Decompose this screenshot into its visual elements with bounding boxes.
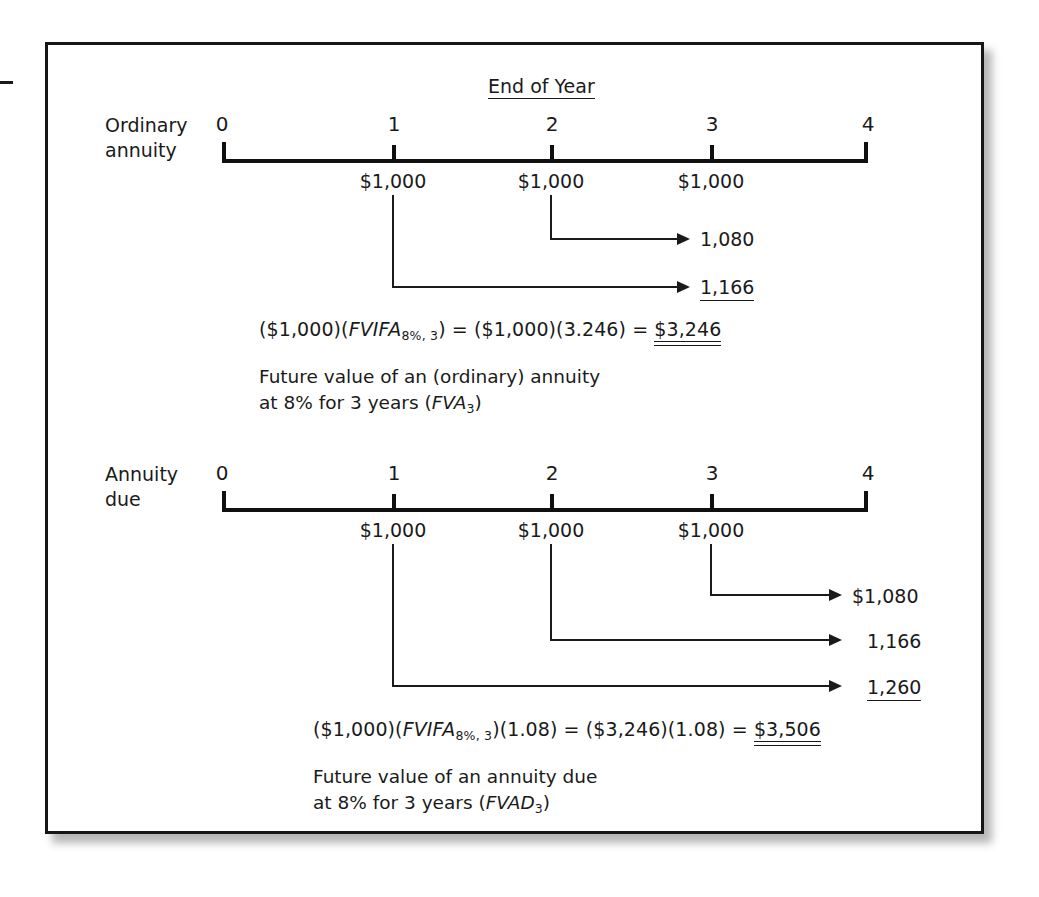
axis-endcap-left-ordinary	[222, 142, 226, 163]
axis-label-3-ordinary: 3	[692, 112, 732, 136]
future-value-1260-due: 1,260	[867, 676, 921, 701]
connector-vertical-year1-ordinary	[392, 195, 394, 288]
axis-endcap-right-due	[864, 491, 868, 512]
axis-label-4-ordinary: 4	[848, 112, 888, 136]
section-title-line1-due: Annuity	[105, 462, 178, 487]
axis-endcap-left-due	[222, 491, 226, 512]
axis-tick-1-ordinary	[392, 145, 396, 163]
description-line1-ordinary: Future value of an (ordinary) annuity	[259, 364, 600, 390]
future-value-1080-due: $1,080	[852, 585, 918, 607]
formula-result-ordinary: $3,246	[654, 318, 721, 342]
future-value-1166-due: 1,166	[867, 630, 921, 652]
cash-flow-year3-due: $1,000	[651, 519, 771, 541]
axis-tick-3-ordinary	[710, 145, 714, 163]
connector-vertical-year2-due	[550, 544, 552, 641]
arrowhead-year1-ordinary	[677, 281, 690, 293]
figure-canvas: End of Year Ordinary annuity 0 1 2 3 4 $…	[45, 42, 984, 834]
axis-label-1-ordinary: 1	[374, 112, 414, 136]
axis-label-2-due: 2	[532, 461, 572, 485]
connector-vertical-year2-ordinary	[550, 195, 552, 240]
connector-horizontal-year2-ordinary	[550, 238, 679, 240]
formula-subscript-due: 8%, 3	[455, 728, 492, 743]
formula-factor-ordinary: FVIFA	[349, 318, 402, 340]
axis-label-0-ordinary: 0	[202, 112, 242, 136]
formula-subscript-ordinary: 8%, 3	[401, 328, 438, 343]
cash-flow-year2-ordinary: $1,000	[491, 170, 611, 192]
section-title-line2-ordinary: annuity	[105, 138, 177, 163]
arrowhead-year1-due	[829, 680, 842, 692]
connector-vertical-year3-due	[710, 544, 712, 596]
formula-annuity-due: ($1,000)(FVIFA8%, 3)(1.08) = ($3,246)(1.…	[313, 718, 821, 743]
description-symbol-ordinary: FVA	[432, 392, 467, 413]
formula-result-due: $3,506	[754, 718, 821, 742]
connector-horizontal-year3-due	[710, 594, 831, 596]
axis-label-4-due: 4	[848, 461, 888, 485]
description-ordinary-annuity: Future value of an (ordinary) annuity at…	[259, 364, 600, 422]
future-value-1166-ordinary: 1,166	[700, 276, 754, 301]
cash-flow-year1-due: $1,000	[333, 519, 453, 541]
cash-flow-year1-ordinary: $1,000	[333, 170, 453, 192]
end-of-year-header: End of Year	[488, 75, 595, 99]
formula-middle-ordinary: ) = ($1,000)(3.246) =	[438, 318, 654, 340]
axis-label-0-due: 0	[202, 461, 242, 485]
arrowhead-year2-ordinary	[677, 233, 690, 245]
axis-label-2-ordinary: 2	[532, 112, 572, 136]
description-line2-ordinary: at 8% for 3 years (FVA3)	[259, 390, 600, 422]
axis-tick-3-due	[710, 494, 714, 512]
formula-prefix-ordinary: ($1,000)(	[259, 318, 349, 340]
formula-prefix-due: ($1,000)(	[313, 718, 403, 740]
description-symbol-due: FVAD	[486, 792, 535, 813]
axis-label-3-due: 3	[692, 461, 732, 485]
arrowhead-year2-due	[829, 634, 842, 646]
arrowhead-year3-due	[829, 589, 842, 601]
description-line2-pre-ordinary: at 8% for 3 years (	[259, 392, 432, 413]
connector-vertical-year1-due	[392, 544, 394, 687]
description-line1-due: Future value of an annuity due	[313, 764, 597, 790]
connector-horizontal-year2-due	[550, 639, 831, 641]
description-line2-post-due: )	[543, 792, 550, 813]
cash-flow-year2-due: $1,000	[491, 519, 611, 541]
axis-tick-1-due	[392, 494, 396, 512]
formula-middle-due: )(1.08) = ($3,246)(1.08) =	[492, 718, 754, 740]
formula-factor-due: FVIFA	[403, 718, 456, 740]
timeline-axis-ordinary	[222, 159, 868, 163]
axis-tick-2-due	[550, 494, 554, 512]
description-line2-post-ordinary: )	[475, 392, 482, 413]
axis-tick-2-ordinary	[550, 145, 554, 163]
timeline-axis-due	[222, 508, 868, 512]
description-line2-pre-due: at 8% for 3 years (	[313, 792, 486, 813]
connector-horizontal-year1-ordinary	[392, 286, 679, 288]
formula-ordinary-annuity: ($1,000)(FVIFA8%, 3) = ($1,000)(3.246) =…	[259, 318, 721, 343]
description-subscript-due: 3	[535, 801, 543, 816]
description-subscript-ordinary: 3	[466, 401, 474, 416]
axis-label-1-due: 1	[374, 461, 414, 485]
connector-horizontal-year1-due	[392, 685, 831, 687]
section-title-line1-ordinary: Ordinary	[105, 113, 188, 138]
annuity-timeline-figure: End of Year Ordinary annuity 0 1 2 3 4 $…	[0, 0, 1039, 897]
future-value-1080-ordinary: 1,080	[700, 228, 754, 250]
axis-endcap-right-ordinary	[864, 142, 868, 163]
crop-mark-dash	[0, 81, 13, 84]
description-line2-due: at 8% for 3 years (FVAD3)	[313, 790, 597, 822]
section-title-line2-due: due	[105, 487, 141, 512]
description-annuity-due: Future value of an annuity due at 8% for…	[313, 764, 597, 822]
cash-flow-year3-ordinary: $1,000	[651, 170, 771, 192]
